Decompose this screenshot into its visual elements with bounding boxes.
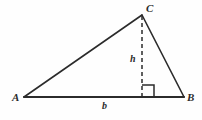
altitude-label-h: h <box>130 54 136 64</box>
right-angle-icon <box>142 85 154 97</box>
geometry-figure: A B C h b <box>0 0 202 120</box>
side-ac-line <box>24 15 142 97</box>
vertex-label-b: B <box>187 92 194 103</box>
triangle-diagram-svg <box>0 0 202 120</box>
vertex-label-a: A <box>12 92 19 103</box>
vertex-label-c: C <box>146 3 153 14</box>
base-label-b: b <box>102 101 107 111</box>
